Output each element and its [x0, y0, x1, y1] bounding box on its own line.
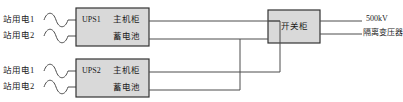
ups1-tag: UPS1 — [82, 16, 101, 24]
ups2-source-lead-1 — [44, 64, 76, 78]
ups1-row-main-cabinet: 主机柜 — [113, 15, 140, 24]
ups1-row-battery: 蓄电池 — [113, 32, 140, 41]
ups2-tag: UPS2 — [82, 67, 101, 75]
source-label-ups1-2: 站用电2 — [3, 31, 34, 40]
source-label-ups1-1: 站用电1 — [3, 15, 34, 24]
source-label-ups2-2: 站用电2 — [3, 82, 34, 91]
output-label-isolation-transformer: 隔离变压器 — [363, 29, 403, 37]
wire-ups2-battery-to-switchgear — [149, 39, 240, 90]
ups2-source-lead-2 — [44, 80, 76, 94]
wire-ups2-main-to-switchgear — [149, 21, 280, 72]
switchgear-label: 开关柜 — [281, 22, 308, 31]
output-label-voltage: 500kV — [366, 15, 388, 23]
ups1-source-lead-1 — [44, 13, 76, 27]
ups1-source-lead-2 — [44, 29, 76, 43]
source-label-ups2-1: 站用电1 — [3, 66, 34, 75]
ups2-row-battery: 蓄电池 — [113, 83, 140, 92]
ups2-row-main-cabinet: 主机柜 — [113, 66, 140, 75]
